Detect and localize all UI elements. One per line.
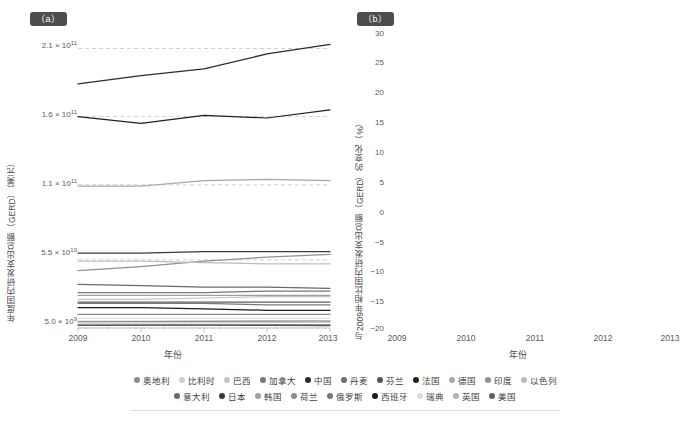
legend-row-1: 奥地利比利时巴西加拿大中国丹麦芬兰法国德国印度以色列 xyxy=(0,372,690,388)
legend-item-label: 荷兰 xyxy=(300,390,318,402)
legend-item-label: 日本 xyxy=(228,390,246,402)
legend-item-label: 意大利 xyxy=(183,390,210,402)
panel-a-ytick-2: 1.1 × 1011 xyxy=(17,178,77,189)
panel-a-xtick-2009: 2009 xyxy=(69,333,88,343)
legend-dot-icon xyxy=(341,377,347,383)
legend-item[interactable]: 印度 xyxy=(485,374,512,386)
legend-dot-icon xyxy=(174,393,180,399)
panel-b-ytick-30: 30 xyxy=(354,29,384,38)
legend-item-label: 法国 xyxy=(422,374,440,386)
legend-item-label: 德国 xyxy=(458,374,476,386)
legend-dot-icon xyxy=(453,393,459,399)
legend-dot-icon xyxy=(377,377,383,383)
legend-item-label: 韩国 xyxy=(264,390,282,402)
legend-item-label: 印度 xyxy=(494,374,512,386)
legend-item-label: 加拿大 xyxy=(269,374,296,386)
legend-dot-icon xyxy=(260,377,266,383)
panel-a-ytick-3: 5.5 × 1010 xyxy=(17,247,77,258)
footer-divider xyxy=(130,410,560,411)
legend-item-label: 比利时 xyxy=(188,374,215,386)
legend-item[interactable]: 芬兰 xyxy=(377,374,404,386)
panel-a-ytick-4: 5.0 × 109 xyxy=(17,316,77,327)
legend-item-label: 芬兰 xyxy=(386,374,404,386)
panel-b: （b） 30 25 20 15 10 5 0 −5 −10 −15 −20 20… xyxy=(345,0,690,370)
panel-a-ytick-0: 2.1 × 1011 xyxy=(17,40,77,51)
panel-a: （a） 年度国内研发支出总额（GERD）（美元） 2.1 × 1011 1.6 … xyxy=(0,0,345,370)
panel-a-y-axis-title: 年度国内研发支出总额（GERD）（美元） xyxy=(6,92,18,322)
legend-dot-icon xyxy=(489,393,495,399)
legend-item[interactable]: 意大利 xyxy=(174,390,210,402)
panel-a-xtick-2010: 2010 xyxy=(132,333,151,343)
legend-dot-icon xyxy=(327,393,333,399)
legend-row-2: 意大利日本韩国荷兰俄罗斯西班牙瑞典英国美国 xyxy=(0,388,690,404)
panel-b-ytick-25: 25 xyxy=(354,58,384,67)
legend-item-label: 巴西 xyxy=(233,374,251,386)
panel-a-xtick-2012: 2012 xyxy=(258,333,277,343)
panel-b-xtick-2011: 2011 xyxy=(526,333,544,343)
panel-b-x-axis-title: 年份 xyxy=(345,348,690,361)
legend-dot-icon xyxy=(219,393,225,399)
legend-dot-icon xyxy=(224,377,230,383)
panel-a-svg xyxy=(78,28,330,328)
legend-item-label: 以色列 xyxy=(530,374,557,386)
legend-item[interactable]: 荷兰 xyxy=(291,390,318,402)
legend-item[interactable]: 英国 xyxy=(453,390,480,402)
panel-a-ytick-1: 1.6 × 1011 xyxy=(17,109,77,120)
legend-dot-icon xyxy=(291,393,297,399)
legend-item[interactable]: 韩国 xyxy=(255,390,282,402)
legend-item[interactable]: 日本 xyxy=(219,390,246,402)
panel-b-xtick-2010: 2010 xyxy=(457,333,476,343)
figure-root: （a） 年度国内研发支出总额（GERD）（美元） 2.1 × 1011 1.6 … xyxy=(0,0,690,422)
legend: 奥地利比利时巴西加拿大中国丹麦芬兰法国德国印度以色列 意大利日本韩国荷兰俄罗斯西… xyxy=(0,372,690,404)
legend-dot-icon xyxy=(179,377,185,383)
panel-b-y-axis-title: 与2009年相比国内研发支出总额（GERD）的变化（%） xyxy=(354,80,366,340)
panel-a-tag: （a） xyxy=(30,12,67,26)
legend-item-label: 美国 xyxy=(498,390,516,402)
legend-item-label: 英国 xyxy=(462,390,480,402)
legend-dot-icon xyxy=(417,393,423,399)
panel-b-xtick-2013: 2013 xyxy=(661,333,680,343)
panel-a-x-axis-title: 年份 xyxy=(0,348,345,361)
legend-item-label: 奥地利 xyxy=(143,374,170,386)
legend-item[interactable]: 比利时 xyxy=(179,374,215,386)
legend-item[interactable]: 法国 xyxy=(413,374,440,386)
legend-item[interactable]: 德国 xyxy=(449,374,476,386)
legend-item[interactable]: 奥地利 xyxy=(134,374,170,386)
legend-item[interactable]: 西班牙 xyxy=(372,390,408,402)
legend-dot-icon xyxy=(485,377,491,383)
legend-dot-icon xyxy=(521,377,527,383)
legend-item-label: 俄罗斯 xyxy=(336,390,363,402)
legend-dot-icon xyxy=(372,393,378,399)
legend-item[interactable]: 加拿大 xyxy=(260,374,296,386)
legend-item[interactable]: 瑞典 xyxy=(417,390,444,402)
legend-dot-icon xyxy=(449,377,455,383)
legend-dot-icon xyxy=(134,377,140,383)
panel-a-plot-area xyxy=(78,28,330,328)
legend-item[interactable]: 丹麦 xyxy=(341,374,368,386)
legend-dot-icon xyxy=(413,377,419,383)
legend-dot-icon xyxy=(255,393,261,399)
panel-a-xtick-2011: 2011 xyxy=(195,333,213,343)
panel-a-xtick-2013: 2013 xyxy=(319,333,338,343)
panel-b-xtick-2012: 2012 xyxy=(594,333,613,343)
panel-b-tag: （b） xyxy=(357,12,394,26)
legend-item[interactable]: 中国 xyxy=(305,374,332,386)
legend-item[interactable]: 巴西 xyxy=(224,374,251,386)
legend-item[interactable]: 美国 xyxy=(489,390,516,402)
legend-item-label: 西班牙 xyxy=(381,390,408,402)
legend-item[interactable]: 俄罗斯 xyxy=(327,390,363,402)
legend-dot-icon xyxy=(305,377,311,383)
panel-b-xtick-2009: 2009 xyxy=(388,333,407,343)
legend-item-label: 中国 xyxy=(314,374,332,386)
legend-item[interactable]: 以色列 xyxy=(521,374,557,386)
legend-item-label: 丹麦 xyxy=(350,374,368,386)
legend-item-label: 瑞典 xyxy=(426,390,444,402)
